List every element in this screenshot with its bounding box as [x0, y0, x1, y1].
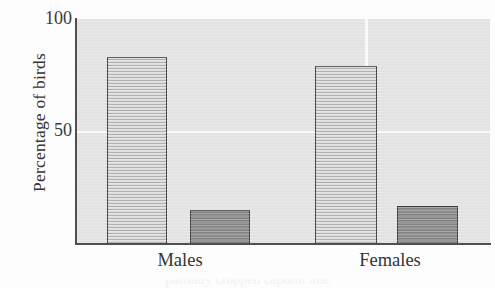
y-tick-label-100: 100 — [45, 9, 72, 27]
cropped-caption-text: partially cropped caption line — [0, 279, 495, 287]
cropped-caption: partially cropped caption line — [0, 279, 495, 288]
y-tick-50: 50 — [28, 131, 72, 132]
bar-females-dark — [397, 206, 458, 244]
x-axis-line — [75, 243, 491, 245]
x-tick-label-females: Females — [325, 250, 455, 271]
y-axis-title: Percentage of birds — [29, 8, 50, 238]
y-axis-line — [75, 18, 77, 245]
y-tick-100: 100 — [28, 19, 72, 20]
bar-males-dark — [190, 210, 250, 244]
plot-area — [77, 19, 490, 244]
bar-males-light — [107, 57, 167, 244]
bar-chart-figure: Percentage of birds 100 50 Males Females… — [0, 0, 495, 288]
bar-females-light — [315, 66, 377, 244]
y-tick-label-50: 50 — [54, 121, 72, 139]
x-tick-label-males: Males — [120, 250, 240, 271]
